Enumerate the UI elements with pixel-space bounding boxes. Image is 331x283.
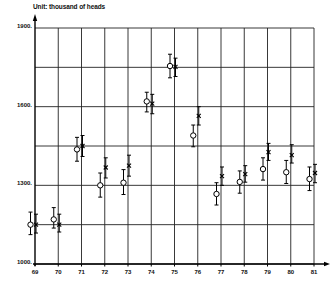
x-tick-label: 74 [143, 269, 159, 275]
open-circle-marker-icon [98, 183, 103, 188]
y-tick-label: 1300. [2, 180, 32, 186]
x-axis-arrow-icon [324, 262, 330, 266]
x-tick-label: 81 [306, 269, 322, 275]
open-circle-marker-icon [51, 217, 56, 222]
open-circle-marker-icon [307, 176, 312, 181]
open-circle-marker-icon [191, 133, 196, 138]
x-tick-label: 77 [213, 269, 229, 275]
x-tick-label: 70 [50, 269, 66, 275]
x-tick-label: 71 [74, 269, 90, 275]
open-circle-marker-icon [284, 170, 289, 175]
open-circle-marker-icon [260, 166, 265, 171]
x-tick-label: 80 [283, 269, 299, 275]
y-tick-label: 1600. [2, 102, 32, 108]
open-circle-marker-icon [121, 180, 126, 185]
y-tick-label: 1000. [2, 259, 32, 265]
y-tick-label: 1900. [2, 23, 32, 29]
x-tick-label: 79 [260, 269, 276, 275]
x-tick-label: 72 [97, 269, 113, 275]
x-tick-label: 76 [190, 269, 206, 275]
open-circle-marker-icon [167, 63, 172, 68]
plot-svg [0, 0, 331, 283]
x-tick-label: 78 [236, 269, 252, 275]
open-circle-marker-icon [144, 99, 149, 104]
open-circle-marker-icon [74, 147, 79, 152]
open-circle-marker-icon [28, 222, 33, 227]
x-tick-label: 73 [120, 269, 136, 275]
chart-area: Unit: thousand of heads 1000.1300.1600.1… [0, 0, 331, 283]
y-axis-arrow-icon [33, 14, 37, 21]
x-tick-label: 75 [167, 269, 183, 275]
x-tick-label: 69 [27, 269, 43, 275]
open-circle-marker-icon [214, 191, 219, 196]
open-circle-marker-icon [237, 179, 242, 184]
